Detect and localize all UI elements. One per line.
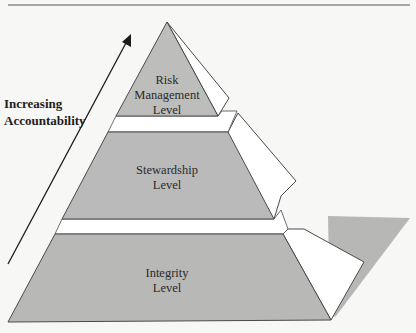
- tier-bottom-label: Integrity Level: [122, 266, 212, 296]
- tier-top-label-line-1: Risk: [127, 73, 207, 88]
- tier-middle-label: Stewardship Level: [122, 163, 212, 193]
- axis-label: Increasing Accountability: [4, 95, 86, 129]
- arrow-head-icon: [122, 34, 131, 47]
- tier-top-label-line-2: Management: [127, 88, 207, 103]
- tier-bottom-label-line-1: Integrity: [122, 266, 212, 281]
- tier-middle-label-line-1: Stewardship: [122, 163, 212, 178]
- axis-label-line-2: Accountability: [4, 112, 86, 129]
- axis-label-line-1: Increasing: [4, 95, 86, 112]
- tier-bottom-label-line-2: Level: [122, 281, 212, 296]
- tier-top-label: Risk Management Level: [127, 73, 207, 118]
- tier-middle-label-line-2: Level: [122, 178, 212, 193]
- tier-top-label-line-3: Level: [127, 103, 207, 118]
